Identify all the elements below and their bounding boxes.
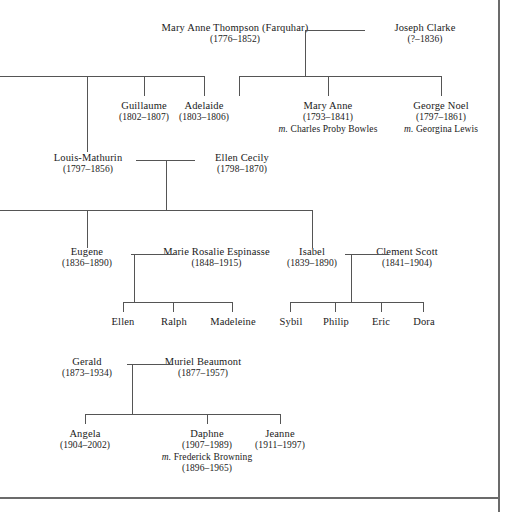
- person-name: George Noel: [383, 100, 499, 112]
- drop-philip: [335, 302, 336, 312]
- marriage-prefix: m.: [404, 124, 413, 134]
- person-name: Isabel: [275, 246, 349, 258]
- spouse-dates: (1896–1965): [132, 463, 282, 474]
- person-spouse: m. Frederick Browning: [132, 452, 282, 463]
- drop-george-noel: [441, 76, 442, 96]
- person-philip: Philip: [312, 316, 360, 328]
- person-name: Ellen Cecily: [196, 152, 288, 164]
- person-name: Clement Scott: [365, 246, 449, 258]
- frame-border-bottom: [0, 497, 500, 499]
- person-name: Eric: [359, 316, 403, 328]
- person-ellen: Ellen: [99, 316, 147, 328]
- drop-isabel: [312, 210, 313, 248]
- person-spouse: m. Georgina Lewis: [383, 124, 499, 135]
- marriage-prefix: m.: [162, 452, 171, 462]
- person-dates: (1911–1997): [238, 440, 322, 451]
- drop-eugene: [87, 210, 88, 248]
- person-dates: (1904–2002): [43, 440, 127, 451]
- person-dates: (1836–1890): [45, 258, 129, 269]
- person-name: Ralph: [150, 316, 198, 328]
- drop-guillaume: [144, 76, 145, 96]
- descent-line-eugene-marie: [134, 254, 135, 302]
- drop-dora: [423, 302, 424, 312]
- person-louis-mathurin: Louis-Mathurin (1797–1856): [42, 152, 134, 176]
- marriage-line-eugene-marie: [131, 254, 175, 255]
- sibling-bar-g5-left: [123, 302, 233, 303]
- person-name: Ellen: [99, 316, 147, 328]
- person-dates: (1848–1915): [151, 258, 282, 269]
- drop-sybil: [290, 302, 291, 312]
- person-gerald: Gerald (1873–1934): [45, 356, 129, 380]
- person-dates: (1873–1934): [45, 368, 129, 379]
- marriage-prefix: m.: [279, 124, 288, 134]
- descent-line-g3: [166, 160, 167, 210]
- person-name: Sybil: [267, 316, 315, 328]
- person-name: Jeanne: [238, 428, 322, 440]
- descent-line-g6: [132, 364, 133, 414]
- person-adelaide: Adelaide (1803–1806): [163, 100, 245, 124]
- person-dates: (1776–1852): [140, 34, 330, 45]
- person-ralph: Ralph: [150, 316, 198, 328]
- person-name: Mary Anne: [258, 100, 398, 112]
- person-dates: (1797–1861): [383, 112, 499, 123]
- person-eric: Eric: [359, 316, 403, 328]
- person-dates: (1797–1856): [42, 164, 134, 175]
- drop-daphne: [207, 414, 208, 424]
- person-sybil: Sybil: [267, 316, 315, 328]
- drop-adelaide: [204, 76, 205, 96]
- drop-ellen: [123, 302, 124, 312]
- marriage-line-g6: [127, 364, 172, 365]
- person-madeleine: Madeleine: [199, 316, 267, 328]
- person-dora: Dora: [401, 316, 447, 328]
- drop-louis-mathurin: [87, 76, 88, 152]
- sibling-bar-right-g2: [239, 76, 442, 77]
- spouse-name: Charles Proby Bowles: [290, 124, 377, 134]
- person-name: Eugene: [45, 246, 129, 258]
- person-name: Gerald: [45, 356, 129, 368]
- person-marie-rosalie-espinasse: Marie Rosalie Espinasse (1848–1915): [151, 246, 282, 270]
- marriage-line-g1-left: [305, 30, 336, 31]
- drop-jeanne: [280, 414, 281, 424]
- drop-bar-right-start: [239, 76, 240, 96]
- person-george-noel: George Noel (1797–1861) m. Georgina Lewi…: [383, 100, 499, 135]
- person-dates: (1798–1870): [196, 164, 288, 175]
- person-jeanne: Jeanne (1911–1997): [238, 428, 322, 452]
- person-clement-scott: Clement Scott (1841–1904): [365, 246, 449, 270]
- marriage-line-g1-b: [336, 30, 365, 31]
- person-dates: (1877–1957): [148, 368, 258, 379]
- person-name: Marie Rosalie Espinasse: [151, 246, 282, 258]
- frame-border-right: [498, 0, 500, 512]
- drop-ralph: [173, 302, 174, 312]
- person-dates: (1793–1841): [258, 112, 398, 123]
- sibling-bar-g5-right: [290, 302, 424, 303]
- person-joseph-clarke: Joseph Clarke (?–1836): [366, 22, 484, 46]
- person-mary-anne-thompson: Mary Anne Thompson (Farquhar) (1776–1852…: [140, 22, 330, 46]
- person-muriel-beaumont: Muriel Beaumont (1877–1957): [148, 356, 258, 380]
- person-dates: (1839–1890): [275, 258, 349, 269]
- person-name: Joseph Clarke: [366, 22, 484, 34]
- sibling-bar-g7: [85, 414, 281, 415]
- person-mary-anne: Mary Anne (1793–1841) m. Charles Proby B…: [258, 100, 398, 135]
- descent-line-g1: [305, 30, 306, 76]
- person-dates: (1803–1806): [163, 112, 245, 123]
- drop-mary-anne: [328, 76, 329, 96]
- sibling-bar-left-g2: [0, 76, 205, 77]
- person-dates: (1841–1904): [365, 258, 449, 269]
- drop-eric: [381, 302, 382, 312]
- spouse-name: Georgina Lewis: [416, 124, 478, 134]
- person-name: Dora: [401, 316, 447, 328]
- person-eugene: Eugene (1836–1890): [45, 246, 129, 270]
- spouse-name: Frederick Browning: [174, 452, 253, 462]
- person-angela: Angela (1904–2002): [43, 428, 127, 452]
- person-name: Louis-Mathurin: [42, 152, 134, 164]
- person-dates: (?–1836): [366, 34, 484, 45]
- person-ellen-cecily: Ellen Cecily (1798–1870): [196, 152, 288, 176]
- person-name: Philip: [312, 316, 360, 328]
- sibling-bar-g4: [0, 210, 313, 211]
- drop-madeleine: [232, 302, 233, 312]
- family-tree-diagram: Mary Anne Thompson (Farquhar) (1776–1852…: [0, 0, 512, 517]
- person-name: Mary Anne Thompson (Farquhar): [140, 22, 330, 34]
- person-name: Madeleine: [199, 316, 267, 328]
- person-name: Adelaide: [163, 100, 245, 112]
- drop-angela: [85, 414, 86, 424]
